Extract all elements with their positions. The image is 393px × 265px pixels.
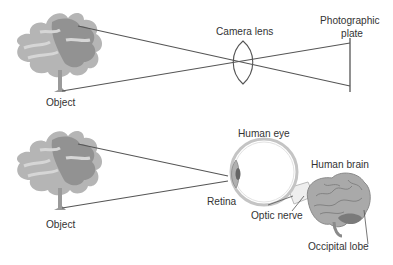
human-eye-icon (231, 139, 297, 205)
optic-nerve-label: Optic nerve (251, 209, 303, 221)
human-brain-label: Human brain (311, 158, 369, 170)
occipital-leader (364, 210, 368, 244)
top-object-label: Object (46, 96, 75, 108)
light-rays (62, 26, 350, 91)
object-tree-icon (17, 13, 102, 92)
human-brain-icon (307, 173, 370, 236)
photographic-plate-label-line2: plate (341, 27, 363, 39)
photographic-plate-label-line1: Photographic (320, 14, 380, 26)
object-tree-icon (17, 131, 102, 210)
human-eye-label: Human eye (238, 127, 290, 139)
occipital-lobe-label: Occipital lobe (308, 240, 369, 252)
camera-lens-label: Camera lens (216, 25, 273, 37)
retina-label: Retina (207, 195, 236, 207)
top-panel (17, 13, 350, 92)
bottom-object-label: Object (46, 218, 75, 230)
